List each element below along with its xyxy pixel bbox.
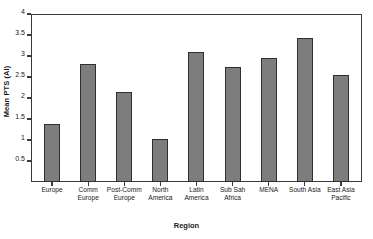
- x-axis-tick-label: Sub Sah Africa: [215, 186, 251, 220]
- bar: [333, 75, 349, 182]
- x-axis-tick-label: Comm Europe: [70, 186, 106, 220]
- y-axis-title: Mean PTS (AI): [0, 0, 15, 182]
- bar: [297, 38, 313, 182]
- bar: [261, 58, 277, 182]
- y-axis-tick-label: 1: [21, 134, 25, 141]
- bar-slot: [106, 14, 142, 182]
- y-axis-tick-label: 3: [21, 50, 25, 57]
- x-axis-tick-label: Europe: [34, 186, 70, 220]
- bar: [44, 124, 60, 182]
- y-axis-tick-label: 0.5: [15, 155, 25, 162]
- y-axis-tick-label: 2: [21, 92, 25, 99]
- bar: [225, 67, 241, 182]
- x-axis-tick-label: South Asia: [287, 186, 323, 220]
- x-axis-tick-labels: EuropeComm EuropePost-Comm EuropeNorth A…: [31, 186, 362, 220]
- x-axis-tick-label: MENA: [251, 186, 287, 220]
- bar-slot: [34, 14, 70, 182]
- bar-slot: [287, 14, 323, 182]
- x-axis-tick-label: Latin America: [178, 186, 214, 220]
- bar-slot: [142, 14, 178, 182]
- bar-slot: [215, 14, 251, 182]
- bar-series: [31, 14, 362, 182]
- x-axis-tick-label: East Asia Pacific: [323, 186, 359, 220]
- bar-slot: [251, 14, 287, 182]
- bar-slot: [178, 14, 214, 182]
- bar-slot: [323, 14, 359, 182]
- bar-chart: Mean PTS (AI) 0.511.522.533.54 EuropeCom…: [0, 0, 373, 239]
- bar: [80, 64, 96, 182]
- y-axis-tick-label: 1.5: [15, 113, 25, 120]
- y-axis-tick-label: 2.5: [15, 71, 25, 78]
- y-axis-title-text: Mean PTS (AI): [3, 65, 12, 117]
- x-axis-tick-label: North America: [142, 186, 178, 220]
- bar: [188, 52, 204, 182]
- x-axis-title: Region: [0, 221, 373, 230]
- bar-slot: [70, 14, 106, 182]
- y-axis-tick-label: 4: [21, 8, 25, 15]
- x-axis-tick-label: Post-Comm Europe: [106, 186, 142, 220]
- bar: [116, 92, 132, 182]
- bar: [152, 139, 168, 182]
- y-axis-tick-label: 3.5: [15, 29, 25, 36]
